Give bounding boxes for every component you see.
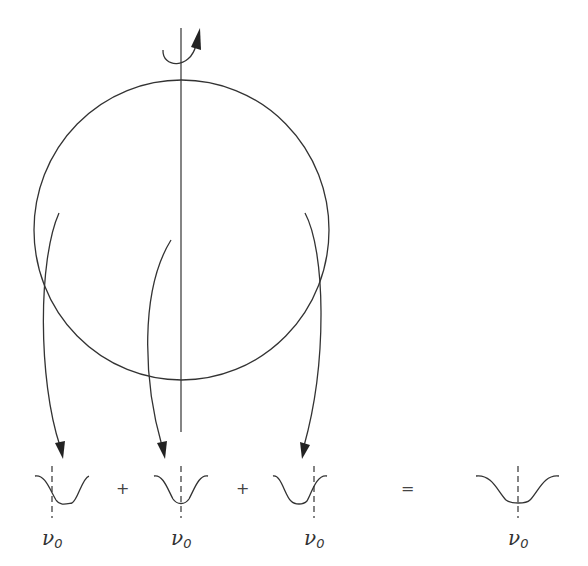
rotation-axis <box>163 28 201 432</box>
arrow-right-limb-shaft <box>304 213 321 446</box>
rotational-broadening-diagram: ν0 + ν0 + ν0 = ν0 <box>0 0 588 566</box>
profile-curve <box>35 476 89 504</box>
profile-left-limb: ν0 <box>35 466 89 551</box>
arrows <box>43 213 321 459</box>
plus-operator-2: + <box>236 479 249 498</box>
plus-operator-1: + <box>116 479 129 498</box>
profile-curve <box>273 476 327 504</box>
arrow-center-head-icon <box>157 441 167 459</box>
nu0-label: ν0 <box>304 526 324 551</box>
rotation-arc <box>163 45 196 64</box>
arrow-center <box>148 240 171 459</box>
arrow-right-limb-head-icon <box>300 442 310 459</box>
profile-broadened: ν0 <box>476 466 559 551</box>
arrow-center-shaft <box>148 240 171 446</box>
nu0-label: ν0 <box>508 526 528 551</box>
profile-right-limb: ν0 <box>273 466 327 551</box>
nu0-label: ν0 <box>171 526 191 551</box>
equals-operator: = <box>401 479 414 498</box>
rotation-arrow-icon <box>191 28 201 50</box>
profile-center: ν0 <box>154 466 208 551</box>
arrow-left-limb-shaft <box>43 213 60 446</box>
arrow-right-limb <box>300 213 321 459</box>
arrow-left-limb <box>43 213 65 459</box>
nu0-label: ν0 <box>42 526 62 551</box>
arrow-left-limb-head-icon <box>55 441 65 459</box>
